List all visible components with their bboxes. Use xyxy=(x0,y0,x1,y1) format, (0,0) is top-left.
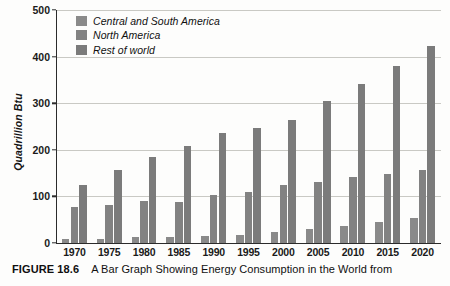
legend-swatch-icon xyxy=(76,30,87,40)
y-tick-label: 100 xyxy=(6,190,50,202)
bar xyxy=(349,177,357,243)
bar xyxy=(427,46,435,243)
bar xyxy=(184,146,192,243)
bar xyxy=(71,207,79,243)
legend-label: Central and South America xyxy=(93,15,220,27)
bar-group xyxy=(231,10,266,243)
bar xyxy=(340,226,348,243)
bar-group xyxy=(301,10,336,243)
bar xyxy=(105,205,113,243)
bar xyxy=(306,229,314,243)
y-tick-label: 0 xyxy=(6,237,50,249)
bar xyxy=(97,239,105,243)
bar xyxy=(140,201,148,243)
bar xyxy=(410,218,418,243)
x-tick-label: 1995 xyxy=(231,246,266,258)
bar xyxy=(288,120,296,243)
bar xyxy=(114,170,122,243)
bar xyxy=(253,128,261,243)
x-tick-label: 1985 xyxy=(161,246,196,258)
bar xyxy=(219,133,227,243)
bar xyxy=(132,237,140,243)
x-tick-label: 1990 xyxy=(196,246,231,258)
bar xyxy=(245,192,253,243)
bar xyxy=(166,237,174,243)
bar xyxy=(314,182,322,243)
bar xyxy=(236,235,244,243)
x-tick-label: 2020 xyxy=(405,246,440,258)
legend-swatch-icon xyxy=(76,45,87,55)
figure-caption-text: A Bar Graph Showing Energy Consumption i… xyxy=(91,263,392,275)
x-tick-label: 1970 xyxy=(57,246,92,258)
bar xyxy=(210,195,218,243)
bar xyxy=(271,232,279,243)
bar xyxy=(175,202,183,243)
x-tick-label: 1980 xyxy=(127,246,162,258)
bar-group xyxy=(266,10,301,243)
bar-chart: 0100200300400500 Quadrillion Btu 1970197… xyxy=(0,0,450,258)
figure-container: 0100200300400500 Quadrillion Btu 1970197… xyxy=(0,0,450,286)
bar xyxy=(375,222,383,243)
figure-caption-label: FIGURE 18.6 xyxy=(12,263,79,275)
x-axis: 1970197519801985199019952000200520102015… xyxy=(57,246,440,258)
chart-legend: Central and South AmericaNorth AmericaRe… xyxy=(76,14,220,56)
legend-item: Rest of world xyxy=(76,43,220,56)
legend-swatch-icon xyxy=(76,16,87,26)
bar xyxy=(62,239,70,243)
y-tick-label: 500 xyxy=(6,4,50,16)
x-tick-label: 1975 xyxy=(92,246,127,258)
bar xyxy=(358,84,366,243)
bar xyxy=(393,66,401,243)
bar xyxy=(79,185,87,243)
bar xyxy=(323,101,331,243)
bar xyxy=(384,174,392,243)
y-tick-label: 400 xyxy=(6,51,50,63)
y-axis-title: Quadrillion Btu xyxy=(12,72,24,192)
legend-item: North America xyxy=(76,29,220,42)
x-tick-label: 2010 xyxy=(336,246,371,258)
legend-label: Rest of world xyxy=(93,44,155,56)
bar-group xyxy=(370,10,405,243)
x-tick-label: 2005 xyxy=(301,246,336,258)
bar-group xyxy=(336,10,371,243)
figure-caption: FIGURE 18.6 A Bar Graph Showing Energy C… xyxy=(12,263,442,275)
bar xyxy=(149,157,157,243)
legend-label: North America xyxy=(93,29,160,41)
x-tick-label: 2000 xyxy=(266,246,301,258)
bar-group xyxy=(405,10,440,243)
bar xyxy=(280,185,288,243)
legend-item: Central and South America xyxy=(76,14,220,27)
bar xyxy=(419,170,427,243)
x-tick-label: 2015 xyxy=(370,246,405,258)
bar xyxy=(201,236,209,243)
